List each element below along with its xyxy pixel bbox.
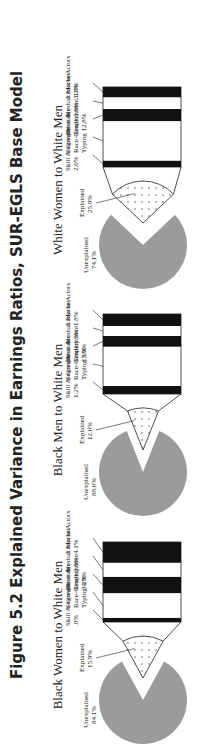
breakdown-label: 4.1% [72,539,80,554]
breakdown-label: 3.8% [72,102,80,117]
explained-value: 12.0% [86,422,94,440]
figure-svg [0,0,223,750]
chart-ww [93,83,187,289]
bar-segment-desirable-employment [103,577,181,593]
explained-slice [128,408,159,450]
breakdown-label: 1.5% [72,329,80,344]
bar-segment-skill-growth [103,386,181,394]
explained-label: Explained [78,416,86,444]
breakdown-label: Links to Actors [64,56,72,99]
explained-slice [123,636,163,678]
bar-segment-skill-growth [103,161,181,167]
bar-segment-desirable-employment [103,109,181,121]
breakdown-label: 1.8% [72,311,80,326]
explained-slice [112,181,173,223]
unexplained-label: Unexplained [82,692,90,728]
unexplained-label: Unexplained [82,237,90,273]
bar-segment-desirable-employment [103,336,181,347]
breakdown-label: 3.2% [80,575,88,590]
explained-label: Explained [78,644,86,672]
breakdown-label: Links to Actors [64,283,72,326]
unexplained-slice [99,215,187,289]
bar-segment-links-to-actors [103,314,181,326]
chart-bw [93,538,187,744]
explained-bar [103,87,181,167]
breakdown-label: Links to Actors [64,511,72,554]
figure-canvas: Figure 5.2 Explained Variance in Earning… [0,0,223,750]
breakdown-label: 2.8% [72,557,80,572]
unexplained-value: 84.1% [90,706,98,724]
unexplained-value: 74.1% [90,251,98,269]
bar-segment-links-to-actors [103,542,181,563]
explained-label: Explained [78,189,86,217]
explained-value: 25.9% [86,195,94,213]
breakdown-label: .8% [72,615,80,626]
bar-segment-skill-growth [103,618,181,622]
bar-segment-links-to-actors [103,87,181,97]
breakdown-label: 1.6% [80,347,88,362]
unexplained-label: Unexplained [82,464,90,500]
breakdown-label: 3.3% [72,84,80,99]
chart-bm [93,310,187,516]
breakdown-label: 1.2% [72,383,80,398]
explained-value: 15.9% [86,650,94,668]
figure-title: Figure 5.2 Explained Variance in Earning… [8,0,26,750]
breakdown-label: 2.0% [72,156,80,171]
unexplained-value: 88.0% [90,478,98,496]
breakdown-label: Typing 12.8% [80,113,88,153]
